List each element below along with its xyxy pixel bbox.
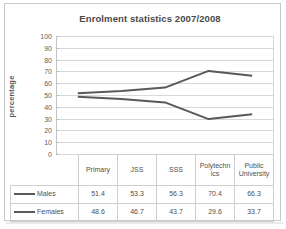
legend-label: Males: [37, 190, 56, 198]
table-row: Females48.646.743.729.633.7: [11, 204, 274, 222]
chart-container: Enrolment statistics 2007/2008 percentag…: [0, 0, 286, 229]
legend-entry-males: Males: [11, 186, 79, 204]
y-tick-mark: [56, 154, 59, 155]
cell-males-primary: 51.4: [79, 186, 118, 204]
y-tick-label: 100: [30, 33, 52, 40]
cell-females-polytechnics: 29.6: [196, 204, 235, 222]
y-tick-label: 20: [30, 127, 52, 134]
y-tick-mark: [56, 142, 59, 143]
y-tick-mark: [56, 95, 59, 96]
legend-label: Females: [37, 208, 64, 216]
series-line-males: [78, 71, 252, 93]
series-lines: [56, 36, 274, 154]
y-tick-mark: [56, 36, 59, 37]
y-tick-mark: [56, 107, 59, 108]
chart-shadow: [6, 222, 283, 224]
y-axis-title: percentage: [7, 67, 16, 127]
y-tick-label: 70: [30, 68, 52, 75]
chart-title: Enrolment statistics 2007/2008: [40, 13, 260, 24]
cell-males-public-university: 66.3: [235, 186, 274, 204]
cell-males-polytechnics: 70.4: [196, 186, 235, 204]
column-header-polytechnics: Polytechn ics: [196, 155, 235, 186]
y-tick-mark: [56, 48, 59, 49]
cell-females-primary: 48.6: [79, 204, 118, 222]
column-header-jss: JSS: [118, 155, 157, 186]
data-table: PrimaryJSSSSSPolytechn icsPublic Univers…: [10, 154, 274, 222]
y-tick-label: 90: [30, 44, 52, 51]
column-header-primary: Primary: [79, 155, 118, 186]
y-tick-mark: [56, 83, 59, 84]
y-tick-mark: [56, 130, 59, 131]
y-tick-mark: [56, 71, 59, 72]
y-tick-label: 80: [30, 56, 52, 63]
cell-females-sss: 43.7: [157, 204, 196, 222]
cell-females-jss: 46.7: [118, 204, 157, 222]
y-tick-label: 30: [30, 115, 52, 122]
y-tick-label: 10: [30, 139, 52, 146]
column-header-public-university: Public University: [235, 155, 274, 186]
y-tick-mark: [56, 119, 59, 120]
table-header-row: PrimaryJSSSSSPolytechn icsPublic Univers…: [11, 155, 274, 186]
cell-females-public-university: 33.7: [235, 204, 274, 222]
cell-males-sss: 56.3: [157, 186, 196, 204]
y-tick-label: 60: [30, 80, 52, 87]
y-tick-label: 50: [30, 92, 52, 99]
legend-entry-females: Females: [11, 204, 79, 222]
cell-males-jss: 53.3: [118, 186, 157, 204]
series-line-females: [78, 97, 252, 119]
table-row: Males51.453.356.370.466.3: [11, 186, 274, 204]
column-header-sss: SSS: [157, 155, 196, 186]
y-tick-label: 40: [30, 103, 52, 110]
plot-area: [56, 36, 274, 154]
table-header-corner: [11, 155, 79, 186]
legend-line-swatch-icon: [14, 193, 35, 195]
legend-line-swatch-icon: [14, 211, 35, 213]
y-tick-mark: [56, 60, 59, 61]
y-axis-tick-labels: 1009080706050403020100: [28, 36, 52, 154]
